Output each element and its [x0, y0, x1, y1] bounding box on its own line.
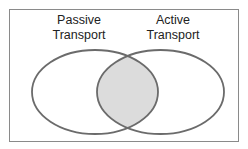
passive-transport-label: Passive Transport	[39, 13, 119, 43]
passive-label-line1: Passive	[39, 13, 119, 28]
passive-label-line2: Transport	[39, 28, 119, 43]
active-transport-label: Active Transport	[133, 13, 213, 43]
active-label-line2: Transport	[133, 28, 213, 43]
active-label-line1: Active	[133, 13, 213, 28]
